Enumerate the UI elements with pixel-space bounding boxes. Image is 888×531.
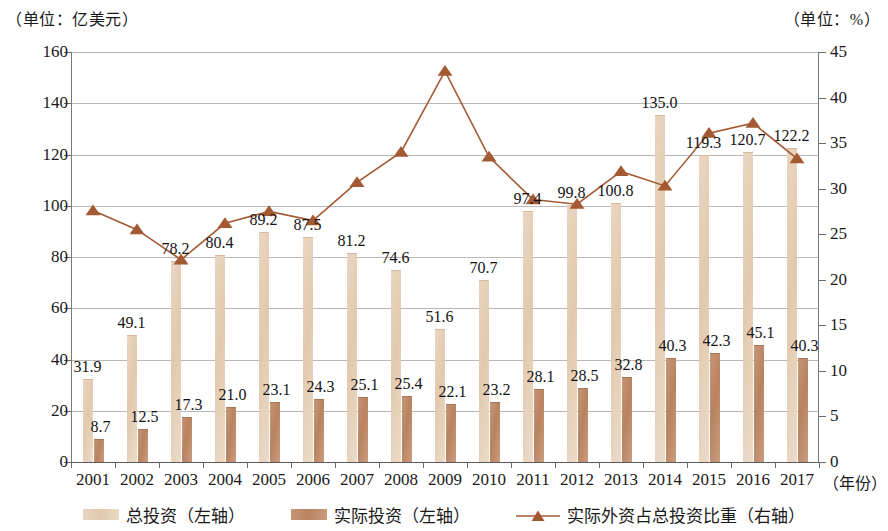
data-label-total-investment: 97.4 [514, 191, 542, 207]
x-axis-tick [467, 462, 468, 468]
legend-label-ratio: 实际外资占总投资比重（右轴） [567, 502, 805, 527]
data-label-actual-investment: 8.7 [91, 419, 111, 435]
x-axis-tick-label: 2008 [384, 470, 418, 490]
x-axis-title: （年份） [823, 470, 887, 494]
right-axis-tick-label: 20 [830, 271, 847, 288]
data-label-actual-investment: 17.3 [175, 397, 203, 413]
x-axis-tick-label: 2003 [164, 470, 198, 490]
x-axis-tick-label: 2013 [604, 470, 638, 490]
x-axis-tick [247, 462, 248, 468]
data-label-actual-investment: 23.2 [483, 382, 511, 398]
right-axis-tick [819, 462, 826, 463]
data-label-actual-investment: 24.3 [307, 379, 335, 395]
x-axis-tick-label: 2016 [736, 470, 770, 490]
right-axis-tick [819, 98, 826, 99]
left-axis-tick-label: 60 [51, 299, 68, 316]
ratio-line-path [93, 71, 797, 260]
data-label-total-investment: 80.4 [206, 235, 234, 251]
ratio-line-marker [86, 204, 101, 215]
right-axis-tick-label: 5 [830, 407, 839, 424]
data-label-actual-investment: 25.4 [395, 376, 423, 392]
x-axis-tick-label: 2009 [428, 470, 462, 490]
chart-legend: 总投资（左轴） 实际投资（左轴） 实际外资占总投资比重（右轴） [0, 498, 888, 531]
data-label-total-investment: 99.8 [558, 185, 586, 201]
x-axis-tick [819, 462, 820, 468]
x-axis-tick [203, 462, 204, 468]
data-label-total-investment: 74.6 [382, 250, 410, 266]
left-axis-tick-label: 160 [43, 43, 69, 60]
x-axis-tick-label: 2015 [692, 470, 726, 490]
x-axis-tick-label: 2007 [340, 470, 374, 490]
right-axis-tick [819, 416, 826, 417]
plot-area: 31.98.749.112.578.217.380.421.089.223.18… [71, 52, 819, 462]
data-label-total-investment: 78.2 [162, 241, 190, 257]
x-axis-tick [643, 462, 644, 468]
left-axis-tick-label: 40 [51, 351, 68, 368]
right-axis-tick [819, 280, 826, 281]
right-axis-tick-label: 35 [830, 134, 847, 151]
right-axis-tick-label: 10 [830, 362, 847, 379]
x-axis-tick-label: 2004 [208, 470, 242, 490]
data-label-total-investment: 81.2 [338, 233, 366, 249]
left-axis-tick-label: 80 [51, 248, 68, 265]
data-label-total-investment: 120.7 [730, 132, 766, 148]
right-axis-tick [819, 189, 826, 190]
right-axis-tick [819, 325, 826, 326]
chart-container: （单位：亿美元） （单位：%） 31.98.749.112.578.217.38… [0, 0, 888, 531]
right-axis-tick [819, 234, 826, 235]
right-axis-tick [819, 143, 826, 144]
data-label-total-investment: 119.3 [686, 135, 721, 151]
x-axis-tick-label: 2006 [296, 470, 330, 490]
right-axis-tick [819, 52, 826, 53]
data-label-actual-investment: 28.5 [571, 368, 599, 384]
data-label-total-investment: 87.5 [294, 217, 322, 233]
data-label-total-investment: 49.1 [118, 315, 146, 331]
left-axis-tick-label: 20 [51, 402, 68, 419]
ratio-line-marker [746, 117, 761, 128]
legend-item-ratio: 实际外资占总投资比重（右轴） [516, 502, 805, 527]
x-axis-tick [335, 462, 336, 468]
data-label-actual-investment: 25.1 [351, 377, 379, 393]
x-axis-tick [775, 462, 776, 468]
x-axis-tick-label: 2010 [472, 470, 506, 490]
right-axis-unit-label: （单位：%） [784, 6, 880, 30]
x-axis-tick-label: 2002 [120, 470, 154, 490]
legend-swatch-bar-icon [83, 509, 119, 520]
ratio-line-marker [614, 165, 629, 176]
legend-item-total-investment: 总投资（左轴） [83, 502, 245, 527]
x-axis-tick-label: 2011 [516, 470, 549, 490]
x-axis-tick [555, 462, 556, 468]
data-label-total-investment: 122.2 [774, 128, 810, 144]
x-axis-tick [731, 462, 732, 468]
data-label-actual-investment: 40.3 [791, 338, 819, 354]
right-axis-tick-label: 0 [830, 453, 839, 470]
legend-item-actual-investment: 实际投资（左轴） [291, 502, 470, 527]
x-axis-tick-label: 2017 [780, 470, 814, 490]
x-axis-tick [291, 462, 292, 468]
data-label-total-investment: 100.8 [598, 183, 634, 199]
data-label-actual-investment: 21.0 [219, 387, 247, 403]
data-label-actual-investment: 42.3 [703, 333, 731, 349]
legend-label-actual-investment: 实际投资（左轴） [334, 502, 470, 527]
x-axis-tick-label: 2005 [252, 470, 286, 490]
x-axis-tick [511, 462, 512, 468]
data-label-actual-investment: 12.5 [131, 409, 159, 425]
right-axis-tick [819, 371, 826, 372]
x-axis-tick [115, 462, 116, 468]
ratio-line-marker [394, 146, 409, 157]
data-label-actual-investment: 28.1 [527, 369, 555, 385]
x-axis-tick [71, 462, 72, 468]
data-label-total-investment: 135.0 [642, 95, 678, 111]
data-label-total-investment: 31.9 [74, 359, 102, 375]
right-axis-tick-label: 15 [830, 316, 847, 333]
x-axis-tick-label: 2001 [76, 470, 110, 490]
right-axis-tick-label: 45 [830, 43, 847, 60]
left-axis-tick-label: 0 [60, 453, 69, 470]
left-axis-unit-label: （单位：亿美元） [6, 6, 138, 30]
legend-swatch-bar-icon [291, 509, 327, 520]
data-label-total-investment: 89.2 [250, 212, 278, 228]
x-axis-tick [687, 462, 688, 468]
data-label-total-investment: 51.6 [426, 309, 454, 325]
data-label-actual-investment: 45.1 [747, 325, 775, 341]
x-axis-tick-label: 2012 [560, 470, 594, 490]
